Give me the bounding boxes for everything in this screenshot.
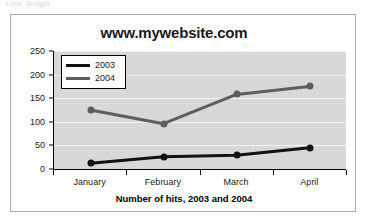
y-tick-label-50: 50 [11,140,45,150]
data-point-2003-february [160,153,167,160]
legend-label-2003: 2003 [95,61,115,70]
legend-swatch-2004 [66,77,90,80]
x-tick-mark-0 [53,170,54,175]
legend-item-2003: 2003 [66,59,121,72]
x-tick-mark-3 [273,170,274,175]
chart-legend: 2003 2004 [61,55,126,89]
x-axis-title: Number of hits, 2003 and 2004 [11,193,357,204]
data-point-2004-february [160,120,167,127]
x-tick-label-february: February [145,177,181,187]
y-tick-label-100: 100 [11,117,45,127]
x-tick-label-april: April [300,177,318,187]
x-tick-label-march: March [224,177,249,187]
data-point-2004-january [87,107,94,114]
y-tick-label-250: 250 [11,46,45,56]
data-point-2003-march [234,152,241,159]
data-point-2003-january [87,160,94,167]
x-tick-label-january: January [74,177,106,187]
y-tick-label-150: 150 [11,93,45,103]
data-point-2003-april [307,144,314,151]
chart-frame: www.mywebsite.com 050100150200250 Januar… [10,14,356,212]
x-tick-mark-2 [200,170,201,175]
legend-item-2004: 2004 [66,72,121,85]
data-point-2004-march [234,91,241,98]
top-caption-text: Line Graph [6,0,50,8]
chart-title: www.mywebsite.com [49,24,299,41]
legend-swatch-2003 [66,64,90,67]
data-point-2004-april [307,83,314,90]
legend-label-2004: 2004 [95,74,115,83]
y-tick-label-0: 0 [11,164,45,174]
chart-screenshot: Line Graph www.mywebsite.com 05010015020… [0,0,368,222]
y-tick-label-200: 200 [11,70,45,80]
x-tick-mark-4 [346,170,347,175]
x-tick-mark-1 [126,170,127,175]
